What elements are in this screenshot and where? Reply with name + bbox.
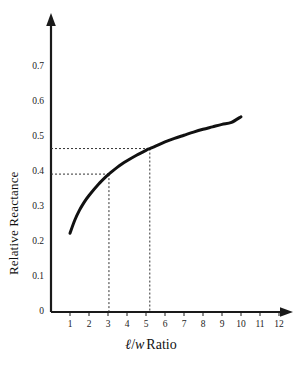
- x-tick-label: 4: [125, 320, 130, 330]
- x-tick-label: 1: [68, 320, 73, 330]
- chart-plot-area: [0, 0, 302, 367]
- x-tick-label: 10: [236, 320, 246, 330]
- x-tick-label: 2: [87, 320, 92, 330]
- data-series-group: [70, 117, 241, 234]
- x-tick-label: 9: [220, 320, 225, 330]
- x-tick-label: 6: [163, 320, 168, 330]
- x-tick-label: 5: [144, 320, 149, 330]
- x-tick-label: 8: [201, 320, 206, 330]
- y-axis-arrowhead: [46, 13, 56, 26]
- x-tick-label: 12: [274, 320, 284, 330]
- x-axis-title-w: w: [135, 337, 144, 352]
- data-curve: [70, 117, 241, 234]
- y-tick-label: 0: [18, 307, 44, 317]
- x-axis-title: ℓ/wRatio: [0, 337, 302, 353]
- axes-group: [46, 13, 293, 317]
- y-axis-title: Relative Reactance: [6, 55, 22, 275]
- annotation-guide-lines: [51, 149, 150, 312]
- x-tick-label: 11: [255, 320, 264, 330]
- x-axis-title-ratio-word: Ratio: [146, 337, 176, 352]
- relative-reactance-chart: 00.10.20.30.40.50.60.7 123456789101112 R…: [0, 0, 302, 367]
- x-axis-arrowhead: [280, 307, 293, 317]
- x-tick-label: 3: [106, 320, 111, 330]
- x-tick-label: 7: [182, 320, 187, 330]
